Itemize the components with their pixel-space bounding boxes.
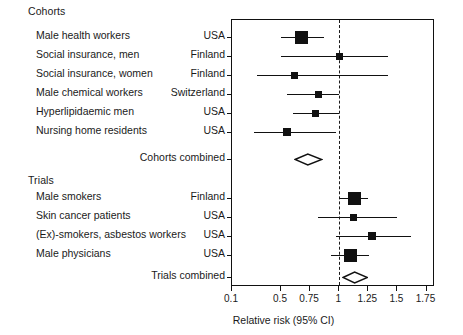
plot-area (231, 19, 434, 286)
y-axis-tick (227, 132, 232, 133)
x-axis-tick-label: 1.75 (416, 293, 435, 304)
point-estimate-marker (348, 192, 361, 205)
point-estimate-marker (291, 72, 298, 79)
y-axis-tick (227, 217, 232, 218)
y-axis-tick (227, 56, 232, 57)
summary-label-trials: Trials combined (151, 269, 225, 281)
y-axis-tick (227, 159, 232, 160)
point-estimate-marker (336, 53, 343, 60)
x-axis: 0.10.50.7511.251.51.75 (231, 286, 434, 298)
confidence-interval-line (254, 132, 336, 133)
x-axis-tick-label: 0.1 (224, 293, 238, 304)
x-axis-title: Relative risk (95% CI) (0, 314, 463, 326)
x-axis-tick (338, 286, 339, 291)
study-name-label: Hyperlipidaemic men (36, 105, 134, 117)
y-axis-tick (227, 198, 232, 199)
study-name-label: Male health workers (36, 29, 130, 41)
point-estimate-marker (312, 110, 319, 117)
y-axis-tick (227, 75, 232, 76)
x-axis-tick (231, 286, 232, 291)
point-estimate-marker (344, 249, 357, 262)
study-label-column: Cohorts Trials Cohorts combined Trials c… (0, 0, 231, 335)
study-country-label: USA (203, 124, 225, 136)
summary-label-cohorts: Cohorts combined (140, 151, 225, 163)
study-name-label: Male physicians (36, 247, 111, 259)
study-country-label: USA (203, 209, 225, 221)
x-axis-tick (396, 286, 397, 291)
study-name-label: Skin cancer patients (36, 209, 131, 221)
x-axis-tick (426, 286, 427, 291)
x-axis-tick-label: 0.5 (273, 293, 287, 304)
summary-diamond (294, 153, 323, 166)
section-heading-cohorts: Cohorts (28, 5, 65, 17)
summary-diamond (342, 271, 368, 284)
study-country-label: Finland (191, 67, 225, 79)
y-axis-tick (227, 37, 232, 38)
study-country-label: USA (203, 105, 225, 117)
study-country-label: Switzerland (171, 86, 225, 98)
study-country-label: USA (203, 29, 225, 41)
point-estimate-marker (350, 214, 357, 221)
x-axis-tick (280, 286, 281, 291)
study-country-label: Finland (191, 190, 225, 202)
confidence-interval-line (281, 56, 388, 57)
point-estimate-marker (295, 31, 308, 44)
study-name-label: Male chemical workers (36, 86, 143, 98)
study-country-label: USA (203, 247, 225, 259)
study-name-label: Nursing home residents (36, 124, 147, 136)
study-name-label: Male smokers (36, 190, 101, 202)
y-axis-tick (227, 94, 232, 95)
study-country-label: Finland (191, 48, 225, 60)
section-heading-trials: Trials (28, 174, 54, 186)
x-axis-tick-label: 0.75 (299, 293, 318, 304)
x-axis-tick (309, 286, 310, 291)
x-axis-title-text: Relative risk (95% CI) (233, 314, 335, 326)
study-name-label: (Ex)-smokers, asbestos workers (36, 228, 186, 240)
confidence-interval-line (257, 75, 389, 76)
x-axis-tick-label: 1 (335, 293, 341, 304)
point-estimate-marker (315, 91, 322, 98)
x-axis-tick-label: 1.25 (358, 293, 377, 304)
study-country-label: USA (203, 228, 225, 240)
x-axis-tick (367, 286, 368, 291)
null-reference-line (339, 20, 340, 285)
study-name-label: Social insurance, men (36, 48, 139, 60)
y-axis-tick (227, 236, 232, 237)
point-estimate-marker (368, 232, 377, 241)
y-axis-tick (227, 277, 232, 278)
x-axis-tick-label: 1.5 (389, 293, 403, 304)
confidence-interval-line (318, 217, 397, 218)
point-estimate-marker (283, 128, 292, 137)
confidence-interval-line (287, 94, 339, 95)
forest-plot-figure: Cohorts Trials Cohorts combined Trials c… (0, 0, 463, 335)
study-name-label: Social insurance, women (36, 67, 153, 79)
y-axis-tick (227, 113, 232, 114)
y-axis-tick (227, 255, 232, 256)
